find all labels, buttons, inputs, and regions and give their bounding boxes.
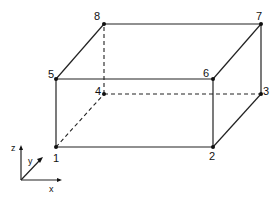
x-axis-label: x [49,184,54,194]
hidden-edge-1-4 [56,94,104,147]
node-7 [259,22,263,26]
node-2 [211,145,215,149]
node-6 [211,77,215,81]
axes-triad: z y x [11,143,62,194]
node-label-1: 1 [53,152,59,164]
node-8 [102,22,106,26]
node-label-4: 4 [95,85,101,97]
x-arrowhead-icon [57,178,62,182]
node-label-3: 3 [263,85,269,97]
edge-7-6 [213,24,261,79]
edge-5-8 [56,24,104,79]
node-label-8: 8 [94,10,100,22]
z-axis-label: z [11,143,16,153]
node-4 [102,92,106,96]
box-diagram: 1 2 3 4 5 6 7 8 z y x [0,0,279,202]
node-1 [54,145,58,149]
edge-3-2 [213,94,261,147]
node-label-2: 2 [209,150,215,162]
node-label-5: 5 [48,68,54,80]
y-axis-label: y [28,156,33,166]
node-label-6: 6 [203,67,209,79]
z-arrowhead-icon [19,145,23,150]
node-label-7: 7 [256,10,262,22]
node-5 [54,77,58,81]
